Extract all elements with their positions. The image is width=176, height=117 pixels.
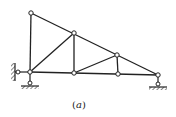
member-bottom-chord [30, 72, 158, 75]
joint-B [72, 31, 76, 35]
truss-members [30, 13, 158, 75]
pin-hinge [28, 81, 32, 85]
member-top-chord [31, 13, 158, 75]
joint-A [28, 70, 32, 74]
ground-hatch [21, 86, 39, 89]
member-C-D [74, 55, 117, 73]
joint-D [115, 53, 119, 57]
ground-hatch [149, 87, 167, 90]
joint-E [116, 72, 120, 76]
caption-close: ) [82, 99, 86, 110]
joint-top [29, 11, 33, 15]
member-top-A [30, 13, 31, 72]
figure-caption: (a) [62, 99, 96, 110]
link-hinge [16, 70, 20, 74]
member-D-E [117, 55, 118, 74]
roller-hinge [156, 82, 160, 86]
joint-C [72, 71, 76, 75]
member-A-B [30, 33, 74, 72]
joint-F [156, 73, 160, 77]
